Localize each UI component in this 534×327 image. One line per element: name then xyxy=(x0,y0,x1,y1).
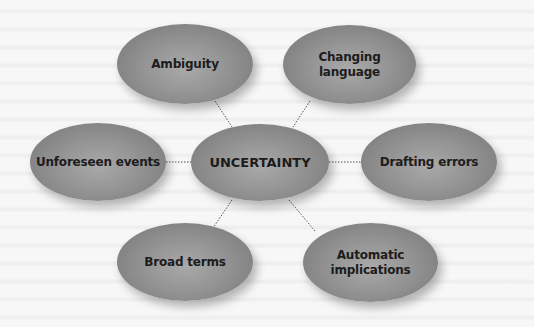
connector-changing-language xyxy=(293,101,310,127)
node-changing-language: Changing language xyxy=(283,25,416,104)
node-label: Automatic implications xyxy=(330,248,410,278)
node-ambiguity: Ambiguity xyxy=(117,24,253,104)
node-drafting-errors: Drafting errors xyxy=(361,123,497,201)
node-label: Changing language xyxy=(318,50,380,80)
node-broad-terms: Broad terms xyxy=(117,223,253,301)
connector-ambiguity xyxy=(215,101,232,127)
node-unforeseen-events: Unforeseen events xyxy=(30,123,166,201)
node-label: Ambiguity xyxy=(151,57,219,72)
connector-broad-terms xyxy=(213,200,232,228)
node-automatic-implications: Automatic implications xyxy=(303,223,438,302)
center-label: UNCERTAINTY xyxy=(209,155,310,170)
node-label: Unforeseen events xyxy=(36,155,160,170)
node-label: Drafting errors xyxy=(380,155,479,170)
connector-automatic-implications xyxy=(289,200,315,231)
node-center-uncertainty: UNCERTAINTY xyxy=(191,124,329,201)
node-label: Broad terms xyxy=(144,255,225,270)
